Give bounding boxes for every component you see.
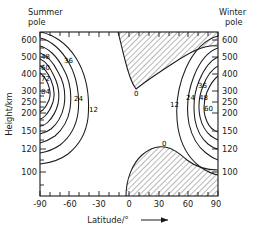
y-tick-left-200: 200	[21, 108, 37, 118]
contour-label-zero-upper: 0	[134, 90, 138, 98]
contour-label-winter-48: 48	[199, 94, 208, 102]
x-tick-60: 60	[183, 199, 193, 209]
y-tick-left-600: 600	[21, 35, 37, 45]
x-axis-title: Latitude/°	[87, 215, 128, 225]
contour-label-winter-60: 60	[204, 105, 213, 113]
y-tick-left-120: 120	[21, 144, 37, 154]
winter-pole-label-line1: Winter	[219, 7, 247, 17]
contour-label-winter-12: 12	[170, 101, 179, 109]
y-axis-title: Height/km	[4, 92, 14, 136]
contour-label-summer-24: 24	[74, 95, 83, 103]
x-tick--90: -90	[33, 199, 46, 209]
contour-label-summer-84: 84	[41, 88, 50, 96]
contour-label-summer-72: 72	[41, 75, 50, 83]
y-tick-left-300: 300	[21, 86, 37, 96]
x-axis-direction-arrow	[141, 217, 168, 222]
y-tick-right-120: 120	[222, 144, 238, 154]
y-tick-left-400: 400	[21, 69, 37, 79]
contour-label-summer-60: 60	[41, 64, 50, 72]
y-tick-left-500: 500	[21, 52, 37, 62]
x-tick--30: -30	[92, 199, 105, 209]
y-tick-right-200: 200	[222, 108, 238, 118]
y-tick-right-300: 300	[222, 86, 238, 96]
contour-label-summer-36: 36	[64, 57, 73, 65]
x-tick-0: 0	[126, 199, 131, 209]
y-tick-right-250: 250	[222, 97, 238, 107]
x-tick-30: 30	[154, 199, 164, 209]
x-tick--60: -60	[63, 199, 76, 209]
contour-label-zero-lower: 0	[162, 140, 166, 148]
y-tick-right-150: 150	[222, 126, 238, 136]
x-tick-90: 90	[211, 199, 221, 209]
contour-figure: Summer pole Winter pole 48 60 72 84 36 2…	[0, 0, 266, 230]
winter-pole-label-line2: pole	[225, 17, 243, 27]
y-tick-right-400: 400	[222, 69, 238, 79]
contour-label-winter-24: 24	[186, 94, 195, 102]
summer-pole-label-line1: Summer	[28, 7, 63, 17]
y-tick-right-500: 500	[222, 52, 238, 62]
y-tick-left-100: 100	[21, 167, 37, 177]
y-tick-left-150: 150	[21, 126, 37, 136]
y-tick-right-100: 100	[222, 167, 238, 177]
summer-pole-label-line2: pole	[28, 17, 46, 27]
contour-label-winter-36: 36	[198, 82, 207, 90]
y-tick-left-250: 250	[21, 97, 37, 107]
y-tick-right-600: 600	[222, 35, 238, 45]
contour-label-summer-12: 12	[89, 106, 98, 114]
